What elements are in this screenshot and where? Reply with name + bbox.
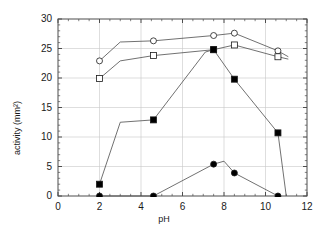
data-point — [231, 30, 237, 36]
series-open-circle-series — [97, 30, 289, 64]
x-tick-label: 10 — [254, 201, 278, 212]
x-tick-label: 2 — [88, 201, 112, 212]
y-axis-label: activity (mm²) — [12, 101, 22, 155]
data-point — [97, 181, 103, 187]
data-point — [150, 53, 156, 59]
data-series-group — [97, 30, 289, 199]
y-tick-label: 25 — [30, 43, 52, 54]
x-tick-label: 8 — [212, 201, 236, 212]
x-tick-label: 4 — [129, 201, 153, 212]
y-tick-label: 5 — [30, 161, 52, 172]
data-point — [150, 193, 156, 199]
data-point — [211, 161, 217, 167]
data-point — [275, 48, 281, 54]
data-point — [97, 193, 103, 199]
x-tick-label: 6 — [171, 201, 195, 212]
data-point — [231, 76, 237, 82]
y-tick-label: 15 — [30, 102, 52, 113]
series-filled-square-series — [97, 47, 287, 196]
data-point — [275, 130, 281, 136]
data-point — [275, 193, 281, 199]
data-point — [231, 170, 237, 176]
data-point — [97, 76, 103, 82]
chart-figure: pH activity (mm²) 024681012 051015202530 — [0, 0, 328, 236]
data-point — [275, 54, 281, 60]
data-point — [150, 117, 156, 123]
data-point — [211, 33, 217, 39]
series-filled-circle-series — [97, 161, 281, 199]
data-point — [150, 38, 156, 44]
y-tick-label: 10 — [30, 131, 52, 142]
x-tick-label: 12 — [295, 201, 319, 212]
data-point — [231, 42, 237, 48]
series-open-square-series — [97, 42, 289, 82]
y-tick-label: 30 — [30, 13, 52, 24]
y-tick-label: 0 — [30, 190, 52, 201]
x-tick-label: 0 — [46, 201, 70, 212]
x-axis-label: pH — [0, 214, 328, 224]
data-point — [211, 47, 217, 53]
data-point — [97, 58, 103, 64]
grid-lines — [58, 19, 307, 196]
y-tick-label: 20 — [30, 72, 52, 83]
